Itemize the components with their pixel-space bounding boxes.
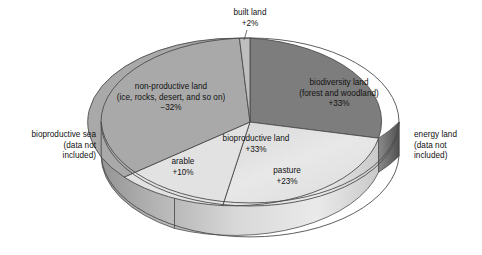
- biodiversity-land-subtitle: (forest and woodland): [273, 89, 405, 100]
- annotation-bioproductive-sea: bioproductive sea (data not included): [4, 130, 96, 162]
- bioproductive-land-name: bioproductive land: [196, 134, 316, 145]
- bioproductive-sea-note-line2: included): [4, 151, 96, 162]
- non-productive-land-value: −32%: [98, 103, 244, 114]
- energy-land-name: energy land: [414, 130, 482, 141]
- pasture-value: +23%: [256, 177, 318, 188]
- bioproductive-sea-name: bioproductive sea: [4, 130, 96, 141]
- biodiversity-land-name: biodiversity land: [273, 78, 405, 89]
- energy-land-note-line1: (data not: [414, 141, 482, 152]
- annotation-energy-land: energy land (data not included): [414, 130, 482, 162]
- energy-land-note-line2: included): [414, 151, 482, 162]
- slice-label-arable: arable +10%: [152, 157, 214, 178]
- non-productive-land-name: non-productive land: [98, 82, 244, 93]
- slice-label-non-productive-land: non-productive land (ice, rocks, desert,…: [98, 82, 244, 114]
- slice-label-built-land: built land +2%: [183, 8, 317, 29]
- built-land-value: +2%: [183, 19, 317, 30]
- slice-side-biodiversity-land: [379, 122, 399, 172]
- pasture-name: pasture: [256, 166, 318, 177]
- pie-chart-figure: built land +2% biodiversity land (forest…: [0, 0, 482, 255]
- non-productive-land-subtitle: (ice, rocks, desert, and so on): [98, 93, 244, 104]
- slice-label-biodiversity-land: biodiversity land (forest and woodland) …: [273, 78, 405, 110]
- pie-chart-svg: [0, 0, 482, 255]
- slice-label-pasture: pasture +23%: [256, 166, 318, 187]
- biodiversity-land-value: +33%: [273, 99, 405, 110]
- group-label-bioproductive-land: bioproductive land +33%: [196, 134, 316, 155]
- built-land-name: built land: [183, 8, 317, 19]
- bioproductive-sea-note-line1: (data not: [4, 141, 96, 152]
- arable-value: +10%: [152, 168, 214, 179]
- bioproductive-land-value: +33%: [196, 145, 316, 156]
- arable-name: arable: [152, 157, 214, 168]
